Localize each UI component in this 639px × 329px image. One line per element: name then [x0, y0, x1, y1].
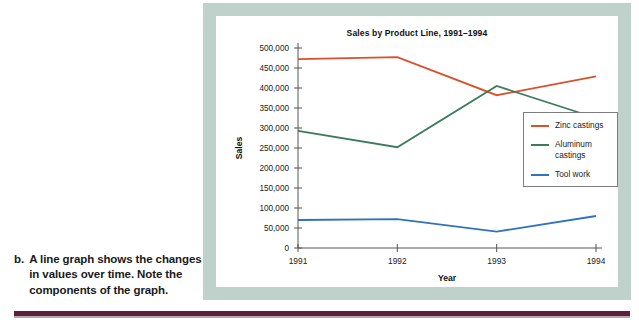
- y-axis-tick-label: 100,000: [259, 204, 289, 213]
- legend-swatch-zinc-castings: [531, 125, 549, 127]
- y-axis-tick-label: 200,000: [259, 164, 289, 173]
- caption-text: A line graph shows the changes in values…: [29, 252, 204, 298]
- legend-label-tool-work: Tool work: [555, 169, 590, 179]
- section-divider-shadow: [14, 316, 630, 318]
- caption-marker: b.: [14, 252, 24, 267]
- series-line-tool-work: [298, 216, 596, 232]
- x-axis-title: Year: [438, 273, 457, 283]
- legend-label-aluminum-castings: Aluminum castings: [555, 139, 611, 160]
- y-axis-tick-label: 250,000: [259, 144, 289, 153]
- figure-inner-panel: Sales by Product Line, 1991–1994 050,000…: [216, 16, 618, 287]
- legend-item-zinc-castings: Zinc castings: [531, 120, 611, 130]
- series-line-zinc-castings: [298, 57, 596, 95]
- legend-swatch-tool-work: [531, 174, 549, 176]
- y-axis-tick-label: 350,000: [259, 104, 289, 113]
- figure-frame: Sales by Product Line, 1991–1994 050,000…: [203, 3, 631, 300]
- chart-legend: Zinc castings Aluminum castings Tool wor…: [523, 112, 618, 187]
- legend-item-aluminum-castings: Aluminum castings: [531, 139, 611, 160]
- x-axis-tick-label: 1991: [289, 256, 308, 266]
- y-axis-tick-label: 50,000: [264, 224, 289, 233]
- y-axis-tick-label: 0: [284, 244, 289, 253]
- y-axis-tick-label: 300,000: [259, 124, 289, 133]
- y-axis-tick-label: 400,000: [259, 84, 289, 93]
- x-axis-tick-label: 1992: [388, 256, 407, 266]
- legend-label-zinc-castings: Zinc castings: [555, 120, 603, 130]
- figure-caption: b. A line graph shows the changes in val…: [14, 252, 204, 298]
- x-axis-tick-label: 1994: [587, 256, 606, 266]
- legend-swatch-aluminum-castings: [531, 144, 549, 146]
- legend-item-tool-work: Tool work: [531, 169, 611, 179]
- y-axis-tick-label: 150,000: [259, 184, 289, 193]
- y-axis-tick-label: 500,000: [259, 44, 289, 53]
- y-axis-title: Sales: [234, 137, 244, 160]
- x-axis-tick-label: 1993: [487, 256, 506, 266]
- y-axis-tick-label: 450,000: [259, 64, 289, 73]
